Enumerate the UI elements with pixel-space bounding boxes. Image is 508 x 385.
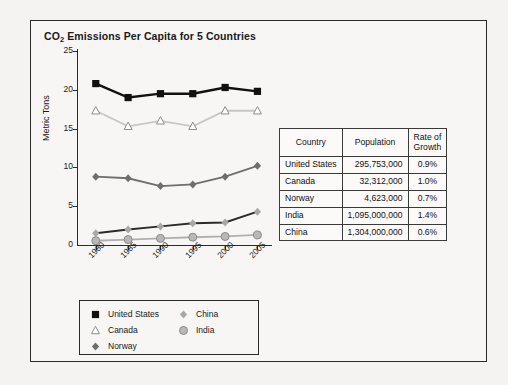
chart-title-subscript: 2: [60, 35, 64, 44]
data-point-marker: [124, 236, 132, 244]
data-point-marker: [92, 311, 99, 318]
header-rate-of-growth: Rate of Growth: [408, 129, 447, 157]
cell-rate-of-growth: 1.0%: [408, 173, 447, 190]
data-point-marker: [125, 94, 132, 101]
data-point-marker: [156, 234, 164, 242]
legend-item-china[interactable]: China: [178, 309, 218, 320]
cell-country: China: [280, 224, 343, 241]
data-point-marker: [189, 219, 196, 227]
cell-country: Norway: [280, 190, 343, 207]
data-point-marker: [125, 174, 132, 182]
series-layer: [43, 45, 273, 275]
y-tick-mark: [73, 206, 77, 207]
y-tick-mark: [73, 129, 77, 130]
population-table: Country Population Rate of Growth United…: [279, 128, 447, 241]
data-point-marker: [189, 90, 196, 97]
data-point-marker: [157, 222, 164, 230]
chart-title-rest: Emissions Per Capita for 5 Countries: [64, 30, 256, 42]
cell-rate-of-growth: 1.4%: [408, 207, 447, 224]
data-point-marker: [221, 232, 229, 240]
table-row: India1,095,000,0001.4%: [280, 207, 447, 224]
data-point-marker: [125, 225, 132, 233]
data-point-marker: [156, 117, 164, 124]
cell-population: 1,304,000,000: [342, 224, 408, 241]
cell-population: 1,095,000,000: [342, 207, 408, 224]
cell-country: United States: [280, 157, 343, 174]
data-point-marker: [254, 162, 261, 170]
chart-legend: United StatesCanadaNorwayChinaIndia: [79, 300, 259, 355]
data-point-marker: [180, 327, 188, 335]
legend-item-canada[interactable]: Canada: [90, 325, 138, 336]
data-point-marker: [92, 237, 100, 245]
cell-country: Canada: [280, 173, 343, 190]
y-tick-mark: [73, 90, 77, 91]
data-point-marker: [157, 182, 164, 190]
data-point-marker: [92, 326, 100, 333]
cell-rate-of-growth: 0.6%: [408, 224, 447, 241]
table-row: Canada32,312,0001.0%: [280, 173, 447, 190]
cell-population: 295,753,000: [342, 157, 408, 174]
table-row: United States295,753,0000.9%: [280, 157, 447, 174]
data-point-marker: [189, 180, 196, 188]
header-rate-line1: Rate of: [414, 132, 442, 142]
y-tick-mark: [73, 51, 77, 52]
legend-label: China: [196, 309, 218, 320]
legend-item-india[interactable]: India: [178, 325, 214, 336]
data-point-marker: [180, 311, 187, 319]
y-tick-mark: [73, 167, 77, 168]
series-line-china: [96, 212, 258, 234]
legend-marker-open-triangle-icon: [90, 325, 101, 336]
legend-item-united-states[interactable]: United States: [90, 309, 159, 320]
data-point-marker: [222, 84, 229, 91]
legend-label: Canada: [108, 325, 138, 336]
series-line-india: [96, 235, 258, 241]
data-point-marker: [222, 173, 229, 181]
header-rate-line2: Growth: [414, 142, 442, 152]
data-point-marker: [189, 233, 197, 241]
legend-marker-filled-square-icon: [90, 309, 101, 320]
legend-item-norway[interactable]: Norway: [90, 341, 137, 352]
data-point-marker: [92, 229, 99, 237]
legend-label: India: [196, 325, 214, 336]
data-point-marker: [157, 90, 164, 97]
data-point-marker: [222, 218, 229, 226]
cell-rate-of-growth: 0.9%: [408, 157, 447, 174]
chart-title: CO2 Emissions Per Capita for 5 Countries: [44, 30, 256, 42]
series-line-norway: [96, 166, 258, 186]
data-point-marker: [253, 231, 261, 239]
header-population: Population: [342, 129, 408, 157]
cell-population: 4,623,000: [342, 190, 408, 207]
legend-label: United States: [108, 309, 159, 320]
legend-marker-light-diamond-icon: [178, 309, 189, 320]
chart-title-co: CO: [44, 30, 60, 42]
data-point-marker: [92, 107, 100, 114]
data-point-marker: [254, 208, 261, 216]
legend-marker-gray-circle-icon: [178, 325, 189, 336]
series-line-canada: [96, 111, 258, 127]
data-point-marker: [254, 88, 261, 95]
series-line-united-states: [96, 84, 258, 98]
plot-area: Metric Tons 0510152025 19801985199019952…: [43, 45, 273, 275]
cell-country: India: [280, 207, 343, 224]
table-header-row: Country Population Rate of Growth: [280, 129, 447, 157]
data-point-marker: [92, 343, 99, 351]
table-body: United States295,753,0000.9%Canada32,312…: [280, 157, 447, 241]
chart-figure: CO2 Emissions Per Capita for 5 Countries…: [30, 20, 487, 362]
legend-label: Norway: [108, 341, 137, 352]
table-row: China1,304,000,0000.6%: [280, 224, 447, 241]
table-row: Norway4,623,0000.7%: [280, 190, 447, 207]
data-point-marker: [92, 173, 99, 181]
data-point-marker: [92, 80, 99, 87]
header-country: Country: [280, 129, 343, 157]
legend-marker-filled-diamond-icon: [90, 341, 101, 352]
cell-population: 32,312,000: [342, 173, 408, 190]
cell-rate-of-growth: 0.7%: [408, 190, 447, 207]
